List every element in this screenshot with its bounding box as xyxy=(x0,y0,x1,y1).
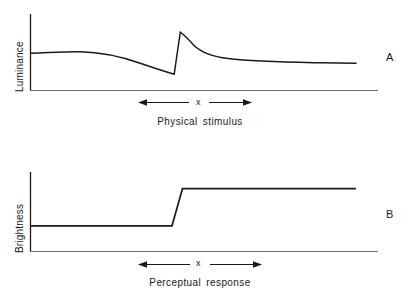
arrow-head-right-b xyxy=(253,261,262,267)
panel-b-y-axis-label: Brightness xyxy=(14,204,25,253)
panel-b xyxy=(30,172,378,268)
arrow-head-left-a xyxy=(138,99,147,105)
panel-b-dimension-label: x xyxy=(196,258,201,268)
arrow-head-right-a xyxy=(243,99,252,105)
panel-a-y-axis-label: Luminance xyxy=(14,41,25,92)
panel-a-luminance-curve xyxy=(31,32,356,74)
panel-a-caption: Physical stimulus xyxy=(0,116,400,127)
arrow-head-left-b xyxy=(138,261,147,267)
panel-a-dimension-label: x xyxy=(196,97,201,107)
panel-a xyxy=(30,14,378,106)
panel-letter-a: A xyxy=(386,51,394,63)
panel-b-brightness-curve xyxy=(31,189,356,226)
cornsweet-illusion-figure xyxy=(0,0,416,300)
panel-b-caption: Perceptual response xyxy=(0,277,400,288)
panel-letter-b: B xyxy=(386,208,394,220)
panel-a-dimension-arrow xyxy=(138,99,252,105)
